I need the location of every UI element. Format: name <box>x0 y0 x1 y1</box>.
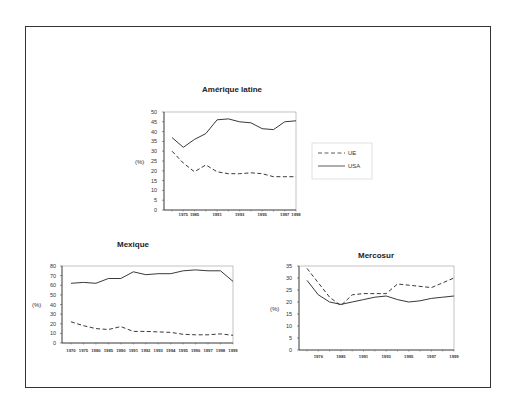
y-tick-label: 0 <box>289 347 292 353</box>
series-line-usa <box>71 270 233 283</box>
x-tick-label: 1997 <box>427 354 437 359</box>
x-tick-label: 1994 <box>166 348 176 353</box>
x-tick-label: 1985 <box>336 354 346 359</box>
legend-label-ue: UE <box>348 150 356 156</box>
y-tick-label: 10 <box>151 187 157 193</box>
y-tick-label: 35 <box>151 138 157 144</box>
series-line-ue <box>71 322 233 336</box>
series-line-usa <box>172 119 296 147</box>
x-tick-label: 1997 <box>203 348 213 353</box>
x-tick-label: 1991 <box>129 348 139 353</box>
x-tick-label: 1997 <box>280 212 290 217</box>
chart-amerique-latine: Amérique latine (%) 05101520253035404550… <box>135 85 301 217</box>
y-tick-label: 0 <box>53 340 56 346</box>
x-tick-label: 1980 <box>91 348 101 353</box>
x-tick-label: 1998 <box>291 212 301 217</box>
y-tick-label: 45 <box>151 119 157 125</box>
chart-mexique: Mexique (%) 0102030405060708019701975198… <box>32 240 238 353</box>
x-tick-label: 1999 <box>228 348 238 353</box>
x-tick-label: 1990 <box>116 348 126 353</box>
y-tick-label: 70 <box>50 273 56 279</box>
y-tick-label: 60 <box>50 282 56 288</box>
y-tick-label: 5 <box>289 335 292 341</box>
y-tick-label: 40 <box>50 302 56 308</box>
y-tick-label: 10 <box>50 330 56 336</box>
y-tick-label: 20 <box>286 299 292 305</box>
y-tick-label: 30 <box>286 275 292 281</box>
figure-canvas: Amérique latine (%) 05101520253035404550… <box>0 0 520 407</box>
y-tick-label: 20 <box>50 321 56 327</box>
series-line-ue <box>172 151 296 177</box>
chart-title: Amérique latine <box>202 85 263 94</box>
y-tick-label: 15 <box>151 178 157 184</box>
x-tick-label: 1976 <box>314 354 324 359</box>
y-tick-label: 15 <box>286 311 292 317</box>
y-tick-label: 50 <box>151 109 157 115</box>
x-tick-label: 1970 <box>66 348 76 353</box>
series-line-ue <box>307 268 454 305</box>
x-tick-label: 1995 <box>404 354 414 359</box>
y-tick-label: 50 <box>50 292 56 298</box>
legend-label-usa: USA <box>348 163 360 169</box>
x-tick-label: 1975 <box>79 348 89 353</box>
y-tick-label: 0 <box>154 207 157 213</box>
x-tick-label: 1998 <box>216 348 226 353</box>
chart-title: Mexique <box>117 240 150 249</box>
chart-mercosur: Mercosur (%) 051015202530351976198519911… <box>270 251 459 359</box>
x-tick-label: 1999 <box>449 354 459 359</box>
x-tick-label: 1985 <box>190 212 200 217</box>
y-tick-label: 35 <box>286 263 292 269</box>
y-tick-label: 25 <box>286 287 292 293</box>
plot-area <box>299 266 454 350</box>
y-axis-label: (%) <box>135 159 144 165</box>
x-tick-label: 1992 <box>141 348 151 353</box>
y-tick-label: 10 <box>286 323 292 329</box>
x-tick-label: 1995 <box>178 348 188 353</box>
x-tick-label: 1991 <box>359 354 369 359</box>
y-tick-label: 30 <box>151 148 157 154</box>
x-tick-label: 1993 <box>381 354 391 359</box>
y-tick-label: 80 <box>50 263 56 269</box>
x-tick-label: 1991 <box>212 212 222 217</box>
x-tick-label: 1995 <box>258 212 268 217</box>
x-tick-label: 1975 <box>179 212 189 217</box>
x-tick-label: 1993 <box>154 348 164 353</box>
y-tick-label: 25 <box>151 158 157 164</box>
series-line-usa <box>307 280 454 304</box>
x-tick-label: 1996 <box>191 348 201 353</box>
plot-area <box>164 112 296 210</box>
y-axis-label: (%) <box>32 302 41 308</box>
x-tick-label: 1985 <box>104 348 114 353</box>
y-tick-label: 20 <box>151 168 157 174</box>
legend: UE USA <box>312 143 372 179</box>
y-tick-label: 30 <box>50 311 56 317</box>
y-tick-label: 40 <box>151 129 157 135</box>
chart-title: Mercosur <box>358 251 394 260</box>
x-tick-label: 1993 <box>235 212 245 217</box>
y-axis-label: (%) <box>270 306 279 312</box>
y-tick-label: 5 <box>154 197 157 203</box>
